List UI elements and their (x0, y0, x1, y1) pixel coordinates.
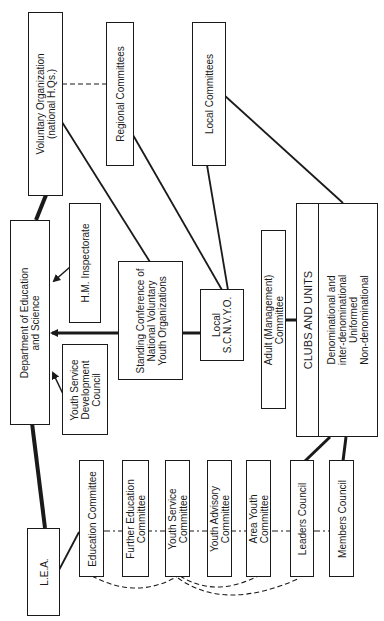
link-lea-education (59, 532, 79, 570)
node-label: Voluntary Organization (35, 53, 46, 154)
node-label: National Voluntary (145, 268, 156, 373)
node-leaders-council: Leaders Council (290, 460, 314, 577)
node-education-committee: Education Committee (79, 460, 104, 577)
node-label: Youth Advisory (209, 486, 220, 552)
node-label: Regional Committees (115, 46, 126, 142)
node-label: Education Committee (86, 471, 97, 567)
node-hm-inspectorate: H.M. Inspectorate (69, 203, 101, 323)
node-label: CLUBS AND UNITS (303, 271, 314, 369)
node-label: Committee (136, 479, 147, 559)
node-regional-committees: Regional Committees (106, 22, 134, 166)
node-label: Youth Service (69, 359, 80, 420)
node-label: Youth Service (167, 488, 178, 549)
node-label: Council (91, 359, 102, 420)
node-label: Members Council (336, 480, 347, 558)
node-label: (national H.Qs.) (46, 53, 57, 154)
node-voluntary-organization: Voluntary Organization(national H.Qs.) (28, 12, 63, 196)
curve-youthservice-leaders (178, 578, 300, 595)
node-label: S.C.N.V.Y.O. (222, 297, 233, 354)
node-local-scnvyo: LocalS.C.N.V.Y.O. (200, 289, 244, 361)
node-label: Committee (178, 488, 189, 549)
node-department-of-education: Department of Educationand Science (10, 220, 50, 425)
node-label: H.M. Inspectorate (80, 224, 91, 303)
curve-education-youthservice (92, 576, 178, 588)
node-label: Leaders Council (297, 482, 308, 554)
link-clubs-members (343, 437, 346, 461)
node-label: Committee (220, 486, 231, 552)
link-clubs-leaders (305, 437, 330, 461)
link-des-lea (32, 423, 45, 528)
node-label: Adult (Management) (263, 274, 274, 365)
node-members-council: Members Council (329, 460, 354, 577)
node-label: and Science (30, 267, 41, 378)
node-youth-advisory-committee: Youth AdvisoryCommittee (207, 460, 232, 577)
node-label: Local Committees (204, 54, 215, 134)
node-label: Further Education (125, 479, 136, 559)
node-club-types: Denominational andinter-denominationalUn… (318, 203, 378, 437)
node-label: Non-denominational (359, 275, 370, 366)
node-further-education-committee: Further EducationCommittee (122, 460, 149, 577)
node-area-youth-committee: Area YouthCommittee (246, 460, 271, 577)
node-label: Committee (274, 274, 285, 365)
node-youth-service-development-council: Youth ServiceDevelopmentCouncil (62, 344, 108, 435)
curve-youthservice-area (180, 576, 258, 587)
node-standing-conference: Standing Conference ofNational Voluntary… (118, 261, 183, 380)
node-label: L.E.A. (38, 558, 49, 585)
node-label: Area Youth (248, 494, 259, 543)
link-local-clubs (224, 95, 343, 203)
node-lea: L.E.A. (27, 528, 60, 616)
node-label: Youth Organizations (156, 268, 167, 373)
node-label: Department of Education (19, 267, 30, 378)
node-label: inter-denominational (337, 275, 348, 366)
link-voluntary-des (36, 195, 46, 220)
node-label: Denominational and (326, 275, 337, 366)
node-label: Local (211, 297, 222, 354)
link-local-scnvyo (207, 165, 228, 290)
node-label: Development (80, 359, 91, 420)
node-label: Committee (259, 494, 270, 543)
node-youth-service-committee: Youth ServiceCommittee (165, 460, 190, 577)
node-local-committees: Local Committees (192, 22, 226, 166)
node-label: Standing Conference of (134, 268, 145, 373)
node-clubs-and-units: CLUBS AND UNITS (296, 203, 320, 437)
node-label: Uniformed (348, 275, 359, 366)
node-adult-management-committee: Adult (Management)Committee (261, 230, 286, 409)
link-hmi-des (54, 267, 70, 281)
